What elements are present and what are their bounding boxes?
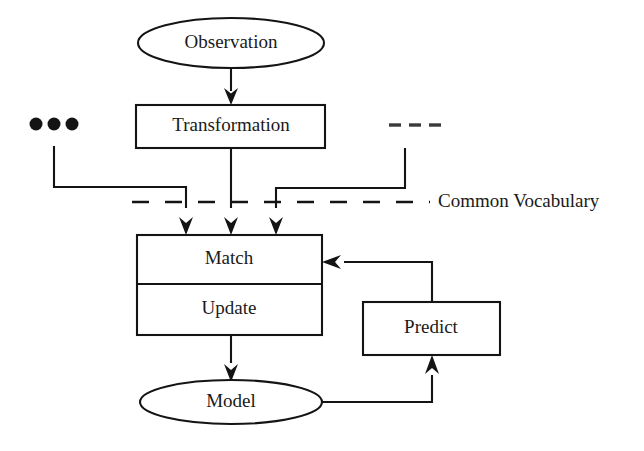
arrowhead-into-predict: [425, 355, 439, 374]
transformation-label: Transformation: [172, 114, 290, 135]
edge-transformation-to-match: [224, 148, 238, 235]
edge-predict-to-match: [322, 255, 432, 302]
update-label: Update: [202, 297, 257, 318]
common-vocabulary-label: Common Vocabulary: [438, 190, 600, 211]
flow-diagram: Observation Transformation: [0, 0, 644, 451]
diagram-canvas: Observation Transformation: [0, 0, 644, 451]
edge-update-to-model: [224, 335, 238, 382]
node-model[interactable]: Model: [140, 380, 322, 424]
model-label: Model: [206, 390, 256, 411]
observation-label: Observation: [185, 31, 278, 52]
match-label: Match: [205, 247, 254, 268]
predict-label: Predict: [404, 316, 459, 337]
node-match-update-group[interactable]: Match Update: [137, 235, 322, 335]
node-observation[interactable]: Observation: [138, 18, 324, 68]
arrowhead-match-feedback: [322, 255, 341, 269]
node-predict[interactable]: Predict: [363, 302, 500, 355]
common-vocabulary-divider: Common Vocabulary: [132, 190, 600, 211]
node-transformation[interactable]: Transformation: [136, 105, 325, 148]
arrowhead-match-right: [269, 217, 283, 235]
edge-right-ellipsis-to-match: [269, 148, 405, 235]
edge-left-ellipsis-to-match: [54, 146, 193, 235]
left-ellipsis-dots-icon: [30, 118, 79, 131]
arrowhead-match-left: [179, 217, 193, 235]
arrowhead-match-center: [224, 217, 238, 235]
edge-model-to-predict: [322, 355, 439, 402]
edge-observation-to-transformation: [224, 68, 238, 105]
